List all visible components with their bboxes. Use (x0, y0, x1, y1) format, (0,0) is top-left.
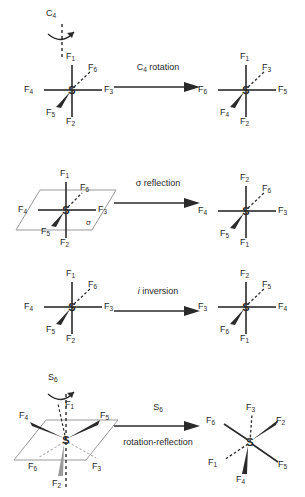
atom-label: F3 (98, 205, 107, 216)
atom-label: F2 (52, 479, 61, 490)
atom-label: F6 (88, 280, 97, 291)
atom-label: F1 (66, 269, 75, 280)
plane-label-sigma: σ (86, 218, 91, 227)
operation-s6: S6 rotation-reflection (112, 402, 204, 448)
operation-sigma-reflection: σ reflection (112, 178, 204, 211)
operation-label: C4 rotation (112, 62, 204, 75)
svg-text:S: S (242, 84, 249, 96)
atom-label: F1 (208, 458, 217, 469)
molecule-c4-left: S F1 F6 F4 F3 F5 F2 (22, 55, 122, 125)
arrow-right-icon (112, 418, 204, 434)
atom-label: F2 (240, 173, 249, 184)
atom-label: F2 (66, 334, 75, 345)
molecule-sigma-right: S F2 F6 F4 F3 F5 F1 (196, 176, 296, 246)
atom-label: F5 (41, 227, 50, 238)
molecule-inversion-right: S F2 F5 F3 F4 F6 F1 (196, 272, 296, 342)
operation-label: S6 (112, 402, 204, 415)
operation-sublabel: rotation-reflection (112, 437, 204, 448)
molecule-c4-right: S F1 F3 F6 F5 F4 F2 (196, 55, 296, 125)
atom-label: F5 (278, 85, 287, 96)
atom-label: F5 (46, 108, 55, 119)
molecule-sigma-left: S F1 F6 F4 F3 F5 F2 σ (12, 168, 122, 258)
row-c4-rotation: C4 S F1 F6 F4 F3 F5 F2 C4 rotation (0, 0, 305, 130)
operation-i-inversion: i inversion (112, 286, 204, 319)
arrow-right-icon (112, 195, 204, 211)
axis-label-c4: C4 (46, 8, 56, 19)
atom-label: F5 (46, 325, 55, 336)
svg-text:S: S (68, 301, 75, 313)
atom-label: F4 (278, 302, 287, 313)
molecule-inversion-left: S F1 F6 F4 F3 F5 F2 (22, 272, 122, 342)
atom-label: F2 (66, 117, 75, 128)
atom-label: F5 (220, 229, 229, 240)
atom-label: F3 (246, 403, 255, 414)
svg-text:S: S (242, 205, 249, 217)
atom-label: F5 (278, 460, 287, 471)
atom-label: F1 (60, 169, 69, 180)
atom-label: F6 (88, 63, 97, 74)
molecule-s6-right: S F3 F2 F6 F5 F1 F4 (200, 394, 300, 494)
svg-text:S: S (242, 301, 249, 313)
atom-label: F5 (100, 411, 109, 422)
arrow-right-icon (112, 303, 204, 319)
arrow-right-icon (112, 79, 204, 95)
atom-label: F1 (240, 238, 249, 249)
atom-label: F4 (24, 85, 33, 96)
atom-label: F2 (60, 238, 69, 249)
atom-label: F4 (236, 475, 245, 486)
atom-label: F6 (198, 85, 207, 96)
atom-label: F4 (24, 302, 33, 313)
atom-label: F4 (198, 206, 207, 217)
atom-label: F3 (262, 63, 271, 74)
operation-c4-rotation: C4 rotation (112, 62, 204, 95)
atom-label: F1 (66, 52, 75, 63)
atom-label: F3 (278, 206, 287, 217)
operation-label: σ reflection (112, 178, 204, 191)
molecule-s6-left: S F1 F4 F5 F6 F3 F2 (8, 392, 128, 497)
atom-label: F6 (206, 416, 215, 427)
atom-label: F3 (198, 302, 207, 313)
atom-label: F4 (19, 411, 28, 422)
row-s6-rotation-reflection: S6 S F1 F4 F5 F6 F3 F2 S6 rotation-r (0, 372, 305, 497)
svg-text:S: S (246, 436, 253, 448)
atom-label: F2 (240, 117, 249, 128)
atom-label: F6 (28, 462, 37, 473)
atom-label: F4 (18, 205, 27, 216)
atom-label: F4 (220, 108, 229, 119)
svg-text:S: S (62, 204, 69, 216)
row-sigma-reflection: S F1 F6 F4 F3 F5 F2 σ σ reflection S F2 … (0, 168, 305, 260)
row-i-inversion: S F1 F6 F4 F3 F5 F2 i inversion S F2 F5 … (0, 272, 305, 362)
atom-label: F1 (240, 52, 249, 63)
atom-label: F2 (276, 416, 285, 427)
atom-label: F1 (240, 334, 249, 345)
atom-label: F6 (220, 325, 229, 336)
atom-label: F3 (92, 462, 101, 473)
axis-label-s6: S6 (48, 372, 58, 383)
atom-label: F6 (262, 184, 271, 195)
operation-label: i inversion (112, 286, 204, 299)
atom-label: F2 (240, 269, 249, 280)
atom-label: F6 (80, 183, 89, 194)
atom-label: F1 (65, 400, 74, 411)
svg-text:S: S (62, 434, 69, 446)
atom-label: F5 (262, 280, 271, 291)
svg-text:S: S (68, 84, 75, 96)
